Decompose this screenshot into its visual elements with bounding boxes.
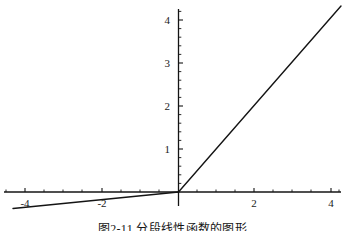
figure-container: -4 -2 2 4 1 2 3 4 图2-11 分段线性函数的图形 <box>0 0 345 231</box>
figure-caption-bar: 图2-11 分段线性函数的图形 <box>0 214 345 231</box>
y-tick-label-1: 1 <box>165 143 171 155</box>
plot-area: -4 -2 2 4 1 2 3 4 <box>0 0 345 215</box>
function-graph-svg: -4 -2 2 4 1 2 3 4 <box>0 0 345 215</box>
y-axis-major-ticks <box>179 20 184 149</box>
function-curve-positive-branch <box>179 6 342 192</box>
y-tick-label-2: 2 <box>165 100 171 112</box>
y-tick-label-3: 3 <box>165 57 171 69</box>
function-curve-negative-branch <box>13 192 179 209</box>
x-tick-label-pos2: 2 <box>251 197 257 209</box>
y-axis-minor-ticks <box>179 11 182 183</box>
figure-caption-text: 图2-11 分段线性函数的图形 <box>0 222 345 231</box>
y-tick-label-4: 4 <box>165 14 171 26</box>
x-tick-label-pos4: 4 <box>328 197 334 209</box>
